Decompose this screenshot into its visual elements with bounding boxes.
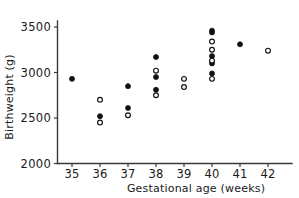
data-point-filled bbox=[70, 76, 75, 81]
data-point-filled bbox=[126, 105, 131, 110]
y-tick-labels: 2000250030003500 bbox=[21, 20, 51, 171]
x-axis-group: 3536373839404142 bbox=[58, 164, 293, 182]
data-point-layer bbox=[70, 28, 271, 125]
data-point-open bbox=[182, 85, 187, 90]
data-point-open bbox=[210, 76, 215, 81]
data-point-open bbox=[154, 68, 159, 73]
y-tick-label: 3500 bbox=[21, 20, 51, 34]
data-point-filled bbox=[126, 84, 131, 89]
data-point-open bbox=[266, 48, 271, 53]
data-point-open bbox=[210, 39, 215, 44]
data-point-filled bbox=[154, 75, 159, 80]
y-tick-label: 2000 bbox=[21, 157, 51, 171]
data-point-open bbox=[126, 113, 131, 118]
x-tick-label: 38 bbox=[148, 167, 163, 181]
data-point-filled bbox=[154, 55, 159, 60]
y-tick-label: 3000 bbox=[21, 66, 51, 80]
y-axis-title: Birthweight (g) bbox=[3, 54, 16, 140]
data-point-filled bbox=[210, 71, 215, 76]
x-tick-label: 40 bbox=[204, 167, 219, 181]
x-tick-label: 41 bbox=[232, 167, 247, 181]
data-point-open bbox=[182, 76, 187, 81]
y-axis-group: 2000250030003500 bbox=[21, 20, 58, 171]
x-tick-label: 36 bbox=[92, 167, 107, 181]
data-point-open bbox=[98, 97, 103, 102]
data-point-filled bbox=[238, 42, 243, 47]
x-axis-title: Gestational age (weeks) bbox=[127, 182, 265, 195]
data-point-open bbox=[210, 58, 215, 63]
x-tick-label: 37 bbox=[120, 167, 135, 181]
x-tick-label: 35 bbox=[64, 167, 79, 181]
plot-canvas: 2000250030003500 3536373839404142 Gestat… bbox=[0, 0, 299, 198]
data-point-open bbox=[210, 47, 215, 52]
data-point-filled bbox=[154, 87, 159, 92]
x-tick-label: 39 bbox=[176, 167, 191, 181]
x-tick-label: 42 bbox=[260, 167, 275, 181]
data-point-filled bbox=[210, 30, 215, 35]
y-tick-label: 2500 bbox=[21, 111, 51, 125]
scatter-plot: 2000250030003500 3536373839404142 Gestat… bbox=[0, 0, 299, 198]
x-tick-labels: 3536373839404142 bbox=[64, 167, 275, 181]
data-point-open bbox=[98, 120, 103, 125]
data-point-open bbox=[154, 93, 159, 98]
data-point-filled bbox=[98, 114, 103, 119]
